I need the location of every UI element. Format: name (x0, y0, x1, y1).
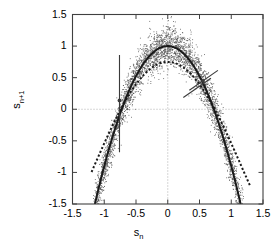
y-axis-label: sn+1 (10, 70, 25, 130)
vertical-error-bar-marker (118, 99, 122, 103)
x-tick-label-6: 1.5 (246, 207, 277, 219)
y-tick-label-2: -0.5 (33, 134, 67, 146)
x-tick-label-0: -1.5 (56, 207, 90, 219)
x-tick-label-3: 0 (151, 207, 185, 219)
scatter-points-group (91, 16, 244, 208)
y-tick-label-3: 0 (33, 102, 67, 114)
y-tick-label-1: -1 (33, 165, 67, 177)
return-map-figure: sn+1 sn -1.5-1-0.500.511.5-1.5-1-0.500.5… (0, 0, 277, 246)
tangent-error-bar-marker (201, 79, 205, 83)
y-tick-label-6: 1.5 (33, 8, 67, 20)
y-tick-label-5: 1 (33, 39, 67, 51)
x-tick-label-2: -0.5 (119, 207, 153, 219)
y-tick-label-4: 0.5 (33, 71, 67, 83)
dotted-estimate-curve (92, 62, 251, 186)
x-tick-label-5: 1 (214, 207, 248, 219)
x-axis-label: sn (0, 226, 277, 241)
x-tick-label-4: 0.5 (183, 207, 217, 219)
x-tick-label-1: -1 (87, 207, 121, 219)
